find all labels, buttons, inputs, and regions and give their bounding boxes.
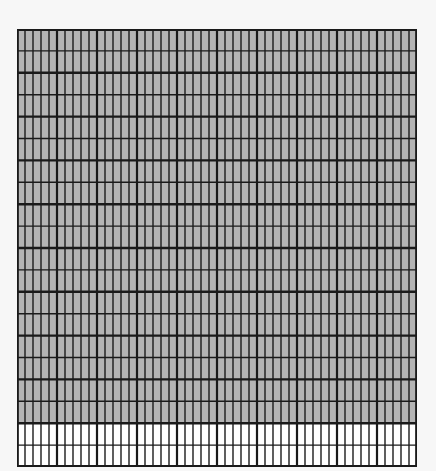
diagram-canvas [0,0,436,471]
grid-lines [17,29,417,467]
shaded-grid [17,29,417,467]
